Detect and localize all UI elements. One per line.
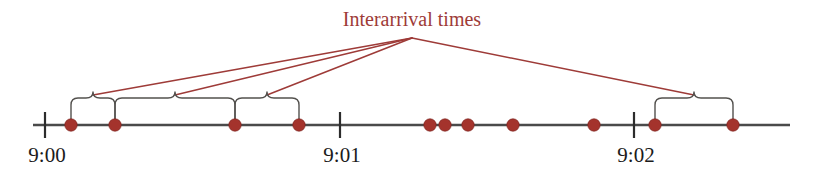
brace-4 (655, 92, 733, 119)
arrival-dot (293, 119, 305, 131)
brace-1 (71, 92, 115, 119)
leader-line-2 (175, 38, 412, 95)
arrival-dot (439, 119, 451, 131)
tick-label-900: 9:00 (28, 143, 65, 167)
diagram-title: Interarrival times (343, 8, 481, 30)
leader-line-4 (412, 38, 694, 95)
tick-label-901: 9:01 (323, 143, 360, 167)
arrival-dot (65, 119, 77, 131)
arrival-dot (649, 119, 661, 131)
brace-2 (115, 92, 235, 119)
arrival-dot (727, 119, 739, 131)
arrival-dot (462, 119, 474, 131)
brace-3 (235, 92, 299, 119)
arrival-dot (109, 119, 121, 131)
arrival-dot (424, 119, 436, 131)
tick-label-902: 9:02 (617, 143, 654, 167)
interarrival-times-diagram: Interarrival times 9:009:019:02 (0, 0, 817, 186)
leader-lines-group (93, 38, 694, 95)
arrival-dot (507, 119, 519, 131)
arrival-dot (588, 119, 600, 131)
leader-line-1 (93, 38, 412, 95)
arrival-dot (229, 119, 241, 131)
leader-line-3 (267, 38, 412, 95)
ticks-group: 9:009:019:02 (28, 112, 654, 167)
